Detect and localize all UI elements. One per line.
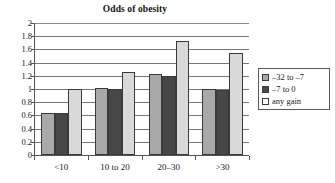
y-axis-tick-label: 1	[6, 85, 32, 94]
bar	[216, 90, 230, 155]
y-axis-tick-label: 0.6	[6, 111, 32, 120]
chart-title: Odds of obesity	[0, 4, 270, 14]
bar-group	[195, 23, 249, 155]
bar	[202, 89, 216, 155]
bar	[108, 89, 122, 155]
bar	[122, 72, 136, 155]
x-axis-tick-mark	[142, 156, 143, 160]
x-axis-tick-mark	[88, 156, 89, 160]
legend-label: –7 to 0	[272, 85, 296, 94]
bar-group	[88, 23, 142, 155]
legend-label: any gain	[272, 97, 301, 106]
bar	[229, 53, 243, 155]
bars-layer	[34, 23, 249, 155]
legend-item[interactable]: –32 to –7	[262, 71, 326, 83]
legend-item[interactable]: any gain	[262, 95, 326, 107]
bar-group	[142, 23, 196, 155]
x-axis-tick-label: 10 to 20	[100, 162, 130, 172]
x-axis-tick-mark	[34, 156, 35, 160]
y-axis-tick-label: 2	[6, 19, 32, 28]
bar	[95, 88, 109, 155]
legend-swatch-icon	[262, 98, 269, 105]
y-axis-tick-label: 0.8	[6, 98, 32, 107]
y-axis-tick-label: 1.4	[6, 58, 32, 67]
x-axis-tick-label: <10	[54, 162, 68, 172]
y-axis: 21.81.61.41.210.80.60.40.20	[0, 0, 32, 183]
y-axis-tick-label: 0.2	[6, 138, 32, 147]
legend-swatch-icon	[262, 86, 269, 93]
y-axis-tick-label: 1.2	[6, 72, 32, 81]
x-axis-tick-label: >30	[215, 162, 229, 172]
y-axis-tick-label: 0	[6, 151, 32, 160]
legend-swatch-icon	[262, 74, 269, 81]
y-axis-tick-label: 1.8	[6, 32, 32, 41]
bar	[41, 113, 55, 155]
x-axis-tick-mark	[195, 156, 196, 160]
y-axis-tick-label: 1.6	[6, 45, 32, 54]
y-axis-tick-label: 0.4	[6, 124, 32, 133]
bar	[149, 74, 163, 155]
odds-of-obesity-chart: Odds of obesity 21.81.61.41.210.80.60.40…	[0, 0, 335, 183]
bar	[176, 41, 190, 155]
bar	[162, 76, 176, 155]
legend-item[interactable]: –7 to 0	[262, 83, 326, 95]
chart-legend: –32 to –7–7 to 0any gain	[258, 68, 330, 110]
bar	[55, 113, 69, 155]
x-axis-tick-mark	[249, 156, 250, 160]
bar	[68, 89, 82, 155]
bar-group	[34, 23, 88, 155]
legend-label: –32 to –7	[272, 73, 304, 82]
x-axis-tick-label: 20–30	[158, 162, 181, 172]
